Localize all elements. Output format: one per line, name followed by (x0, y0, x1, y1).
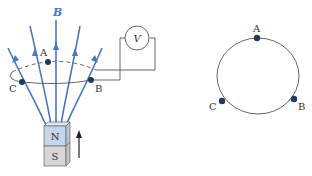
bar-magnet: N S (44, 122, 70, 166)
field-label: B (52, 6, 62, 19)
magnetic-field-lines (8, 20, 102, 130)
arrowhead-icon (53, 42, 59, 50)
field-line (60, 26, 80, 130)
point-a-dot (45, 59, 51, 65)
north-label: N (51, 131, 60, 142)
up-arrow-icon (76, 130, 82, 158)
right-figure: A C B (209, 23, 305, 114)
point-b-dot (88, 77, 94, 83)
loop-back-dashed (12, 61, 96, 72)
point-c-label: C (209, 101, 217, 112)
point-b-label: B (298, 101, 305, 112)
left-figure: V A C B B N S (8, 6, 155, 166)
point-c-dot (19, 79, 25, 85)
magnet-south-side (66, 142, 70, 166)
loop-top-view (217, 38, 299, 114)
point-b-dot (291, 96, 297, 102)
point-a-dot (254, 35, 260, 41)
voltmeter: V (125, 26, 149, 50)
south-label: S (52, 151, 59, 162)
point-a-label: A (39, 47, 48, 58)
point-c-dot (219, 98, 225, 104)
point-a-label: A (252, 23, 261, 34)
field-arrowheads (12, 42, 98, 63)
magnet-top-face (44, 122, 70, 126)
arrowhead-icon (32, 48, 38, 56)
arrowhead-icon (72, 48, 78, 56)
point-b-label: B (95, 83, 102, 94)
diagram-canvas: V A C B B N S (0, 0, 312, 176)
point-c-label: C (9, 83, 17, 94)
